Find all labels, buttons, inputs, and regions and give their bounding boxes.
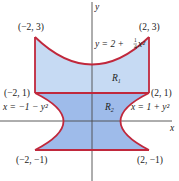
point-label-2-m1: (2, −1) [137, 155, 163, 166]
top-curve-frac-suffix: x² [137, 39, 145, 49]
region-diagram: y x (−2, 3) (2, 3) (−2, 1) (2, 1) (−2, −… [0, 0, 179, 181]
point-label-m2-1: (−2, 1) [4, 88, 30, 99]
point-label-m2-m1: (−2, −1) [16, 155, 47, 166]
x-axis-label: x [169, 123, 175, 133]
left-curve-equation: x = −1 − y² [2, 102, 48, 112]
y-axis-label: y [94, 2, 100, 12]
point-label-2-3: (2, 3) [139, 22, 160, 33]
point-label-2-1: (2, 1) [151, 88, 172, 99]
point-label-m2-3: (−2, 3) [18, 22, 44, 33]
top-curve-frac-den: 4 [134, 44, 137, 50]
right-curve-equation: x = 1 + y² [130, 102, 170, 112]
top-curve-frac-num: 1 [134, 37, 137, 43]
top-curve-equation: y = 2 + [94, 39, 124, 49]
